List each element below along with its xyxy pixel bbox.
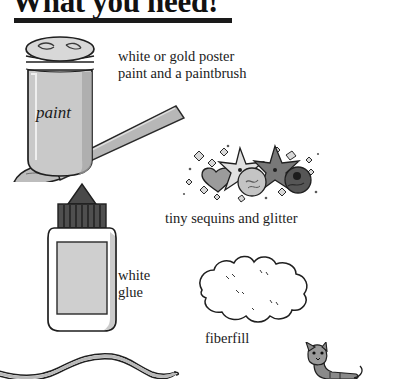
string-outline-lower: [0, 359, 176, 379]
caption-fiberfill: fiberfill: [205, 330, 305, 347]
fiberfill-illustration: [192, 248, 317, 330]
glue-tip-icon: [68, 184, 96, 204]
sequins-and-glitter-illustration: [178, 142, 323, 204]
white-glue-bottle-illustration: [38, 180, 128, 335]
caption-glue-line1: white: [118, 267, 188, 284]
caption-paint: white or gold poster paint and a paintbr…: [118, 48, 333, 82]
glue-label-panel: [57, 242, 107, 314]
caption-glue-line2: glue: [118, 284, 188, 301]
wavy-string-illustration: [0, 346, 181, 379]
fiberfill-blob-icon: [200, 256, 307, 322]
craft-instructions-page: What you need!: [0, 0, 406, 379]
page-title: What you need!: [12, 0, 272, 20]
caption-sequins: tiny sequins and glitter: [165, 210, 365, 227]
caption-paint-line1: white or gold poster: [118, 48, 333, 65]
jar-paint-label: paint: [35, 103, 72, 122]
cat-illustration: [296, 342, 366, 379]
title-rule-divider: [14, 18, 232, 23]
round-sequin-dark-icon: [285, 167, 311, 193]
cat-icon: [306, 342, 362, 379]
caption-paint-line2: paint and a paintbrush: [118, 65, 333, 82]
caption-glue: white glue: [118, 267, 188, 301]
